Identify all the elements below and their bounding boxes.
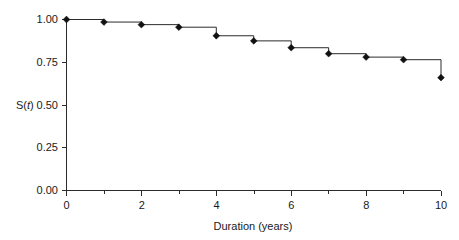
x-tick-label: 0 [63, 199, 69, 211]
y-tick-label: 0.25 [37, 141, 58, 153]
x-tick-label: 8 [363, 199, 369, 211]
y-tick-label: 0.00 [37, 184, 58, 196]
x-axis-title: Duration (years) [214, 220, 293, 232]
survival-chart: 1.00 0.75 0.50 0.25 0.00 0 2 4 [0, 0, 459, 240]
x-tick-label: 10 [435, 199, 447, 211]
y-tick-label: 1.00 [37, 13, 58, 25]
chart-canvas: 1.00 0.75 0.50 0.25 0.00 0 2 4 [0, 0, 459, 240]
x-tick-label: 2 [139, 199, 145, 211]
y-tick-label: 0.50 [37, 99, 58, 111]
x-tick-label: 4 [214, 199, 220, 211]
x-tick-label: 6 [288, 199, 294, 211]
y-axis-title-suffix: ) [30, 99, 34, 111]
y-tick-label: 0.75 [37, 56, 58, 68]
y-axis-title-prefix: S( [16, 99, 27, 111]
y-axis-title: S(t) [16, 99, 34, 111]
